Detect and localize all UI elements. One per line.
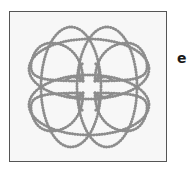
- center-tile-top-right: [95, 63, 113, 81]
- center-tile-bottom-right: [95, 93, 113, 111]
- center-tile-top-left: [65, 63, 83, 81]
- figure-panel: [9, 11, 167, 162]
- center-tile-bottom-left: [65, 93, 83, 111]
- vertical-loop-right: [77, 27, 137, 147]
- knot-pattern: [10, 12, 166, 161]
- vertical-loop-left: [41, 27, 101, 147]
- panel-label: e: [177, 50, 187, 66]
